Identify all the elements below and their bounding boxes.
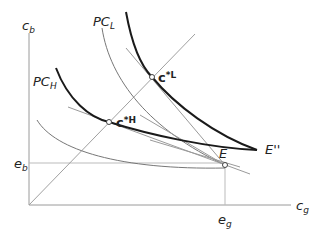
epp-upper-curve: [126, 12, 257, 150]
eg-label: eg: [218, 212, 232, 229]
diagram-canvas: cb cg eb eg PCL PCH E'' E c*L c*H: [0, 0, 327, 238]
eb-label: eb: [14, 156, 28, 173]
cstar-l-label: c*L: [158, 70, 176, 85]
diagonal-line: [29, 34, 195, 205]
pcl-label: PCL: [93, 14, 115, 31]
point-e: [223, 163, 228, 168]
e-label: E: [219, 146, 228, 161]
point-cstar-l: [150, 75, 155, 80]
y-axis-label: cb: [22, 18, 35, 35]
point-cstar-h: [107, 120, 112, 125]
epp-label: E'': [265, 142, 280, 157]
x-axis-label: cg: [296, 198, 309, 215]
pch-label: PCH: [33, 74, 57, 91]
